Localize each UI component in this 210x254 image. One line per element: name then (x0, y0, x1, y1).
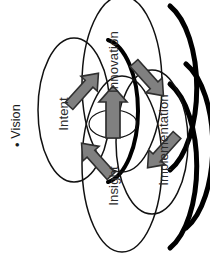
label-innovation: Innovation (106, 31, 121, 93)
label-intent: Intent (56, 97, 71, 131)
venn-diagram-svg: Intent Innovation Insight Implementation (0, 0, 210, 254)
label-implementation: Implementation (156, 94, 171, 186)
diagram-canvas: • Vision (0, 0, 210, 254)
label-insight: Insight (106, 166, 121, 206)
